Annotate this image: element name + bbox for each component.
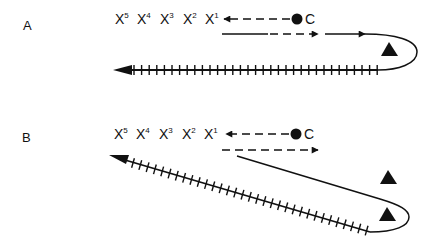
- site-labels: X5 X4 X3 X2 X1: [114, 126, 218, 142]
- site-label-x5: X5: [114, 126, 128, 142]
- origin-dot-icon: [291, 129, 302, 140]
- triangle-icon: [380, 170, 397, 184]
- arrowhead-left-icon: [113, 65, 132, 75]
- diagram: A X5 X4 X3 X2 X1 C B X5 X4 X3: [0, 0, 436, 242]
- site-label-x4: X4: [137, 11, 151, 27]
- site-label-x4: X4: [136, 126, 150, 142]
- site-label-x3: X3: [159, 126, 173, 142]
- site-label-x2: X2: [183, 11, 197, 27]
- arrowhead-left-icon: [109, 155, 129, 164]
- site-label-x5: X5: [115, 11, 129, 27]
- triangle-icon: [381, 42, 398, 56]
- site-labels: X5 X4 X3 X2 X1: [115, 11, 219, 27]
- panel-a: A X5 X4 X3 X2 X1 C: [23, 11, 417, 75]
- origin-dot-icon: [292, 14, 303, 25]
- site-label-x2: X2: [182, 126, 196, 142]
- site-label-x1: X1: [205, 11, 219, 27]
- panel-b: B X5 X4 X3 X2 X1 C: [22, 126, 409, 235]
- site-label-x1: X1: [204, 126, 218, 142]
- panel-label: B: [22, 130, 31, 145]
- origin-label: C: [304, 126, 314, 142]
- site-label-x3: X3: [160, 11, 174, 27]
- panel-label: A: [23, 18, 32, 33]
- strand-ticks: [132, 158, 368, 235]
- triangle-icon: [379, 207, 396, 221]
- origin-label: C: [305, 11, 315, 27]
